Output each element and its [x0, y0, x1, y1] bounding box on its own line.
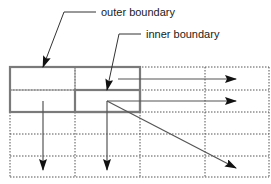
boundary-diagram	[0, 0, 271, 184]
outer-boundary-leader	[43, 12, 96, 67]
inner-boundary-leader	[107, 34, 141, 90]
diagonal-arrow	[107, 101, 236, 168]
outer-boundary-label: outer boundary	[101, 7, 175, 18]
inner-boundary-label: inner boundary	[146, 29, 219, 40]
